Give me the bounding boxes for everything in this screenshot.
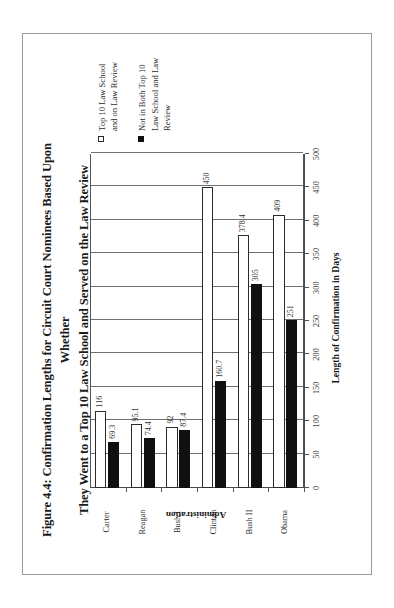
x-axis-category-label: Clinton	[209, 494, 218, 550]
y-axis-tick	[305, 287, 309, 288]
gridline	[91, 219, 303, 220]
bar-carter-series-0	[95, 411, 106, 488]
gridline	[91, 319, 303, 320]
x-axis-category-label: Obama	[280, 494, 289, 550]
gridline	[91, 286, 303, 287]
y-axis-tick	[305, 454, 309, 455]
x-axis-tick	[126, 488, 127, 492]
document-page: Figure 4.4: Confirmation Lengths for Cir…	[0, 0, 394, 608]
x-axis-tick	[268, 488, 269, 492]
gridline	[91, 419, 303, 420]
bar-value-label: 92	[166, 416, 175, 424]
y-axis-tick	[305, 220, 309, 221]
gridline	[91, 386, 303, 387]
x-axis-tick	[197, 488, 198, 492]
y-axis-tick	[305, 353, 309, 354]
x-axis-tick	[161, 488, 162, 492]
chart-legend: Top 10 Law School and on Law ReviewNot i…	[96, 54, 189, 142]
gridline	[91, 185, 303, 186]
bar-value-label: 305	[251, 269, 260, 281]
y-axis-title: Length of Confirmation in Days	[330, 198, 341, 438]
category-axis-line	[304, 154, 305, 488]
chart-title-line-1: Figure 4.4: Confirmation Lengths for Cir…	[38, 130, 75, 550]
x-axis-category-label: Bush I	[173, 494, 182, 550]
gridline	[91, 352, 303, 353]
bar-value-label: 69.3	[108, 425, 117, 439]
y-axis-tick	[305, 153, 309, 154]
legend-swatch-white	[98, 136, 104, 142]
y-axis-tick	[305, 186, 309, 187]
gridline	[91, 152, 303, 153]
bar-bush-ii-series-0	[238, 235, 249, 488]
bar-clinton-series-1	[215, 381, 226, 488]
plot-area	[90, 154, 304, 488]
x-axis-tick	[304, 488, 305, 492]
y-axis-tick	[305, 320, 309, 321]
y-axis-tick	[305, 387, 309, 388]
legend-swatch-black	[138, 136, 144, 142]
bar-reagan-series-1	[144, 438, 155, 488]
x-axis-category-label: Bush II	[245, 494, 254, 550]
bar-value-label: 116	[95, 396, 104, 408]
legend-label: Not in Both Top 10 Law School and Law Re…	[137, 58, 171, 131]
legend-entry-1: Not in Both Top 10 Law School and Law Re…	[136, 54, 173, 142]
figure-chart: Figure 4.4: Confirmation Lengths for Cir…	[34, 50, 360, 558]
y-axis-tick	[305, 487, 309, 488]
bar-carter-series-1	[108, 442, 119, 488]
chart-title: Figure 4.4: Confirmation Lengths for Cir…	[38, 130, 93, 550]
gridline	[91, 453, 303, 454]
bar-value-label: 378.4	[238, 214, 247, 232]
bar-obama-series-0	[273, 215, 284, 488]
bar-value-label: 251	[286, 305, 295, 317]
y-axis-tick-label: 500	[312, 134, 321, 174]
legend-entry-0: Top 10 Law School and on Law Review	[96, 54, 120, 142]
bar-bush-i-series-0	[166, 427, 177, 488]
x-axis-category-label: Carter	[102, 494, 111, 550]
x-axis-category-label: Reagan	[138, 494, 147, 550]
y-axis-tick	[305, 253, 309, 254]
legend-label: Top 10 Law School and on Law Review	[97, 62, 119, 131]
bar-value-label: 450	[202, 172, 211, 184]
bar-value-label: 87.4	[179, 413, 188, 427]
bar-clinton-series-0	[202, 187, 213, 488]
bar-value-label: 160.7	[215, 360, 224, 378]
bar-bush-i-series-1	[179, 430, 190, 488]
bar-reagan-series-0	[131, 424, 142, 488]
bar-bush-ii-series-1	[251, 284, 262, 488]
bar-value-label: 74.4	[144, 421, 153, 435]
bar-value-label: 409	[273, 200, 282, 212]
gridline	[91, 252, 303, 253]
bar-value-label: 95.1	[131, 407, 140, 421]
x-axis-tick	[233, 488, 234, 492]
bar-obama-series-1	[286, 320, 297, 488]
x-axis-title: Administration	[136, 510, 256, 520]
y-axis-tick	[305, 420, 309, 421]
